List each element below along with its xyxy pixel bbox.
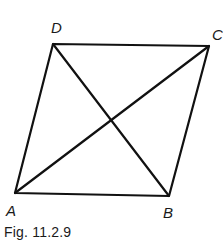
vertex-label-c: C (212, 26, 223, 43)
figure-caption: Fig. 11.2.9 (4, 224, 71, 240)
vertex-label-d: D (51, 19, 62, 36)
diagonal-bd (53, 44, 169, 196)
vertex-label-a: A (5, 202, 16, 219)
parallelogram-figure: A B C D Fig. 11.2.9 (0, 0, 223, 248)
vertex-label-b: B (163, 204, 173, 221)
parallelogram-diagram: A B C D (0, 0, 223, 248)
